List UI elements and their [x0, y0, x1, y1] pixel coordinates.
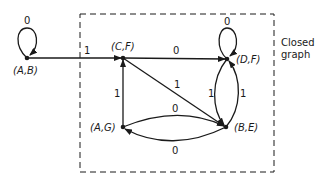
- edge-BE-DF: [226, 61, 238, 127]
- node-DF-label: (D,F): [236, 54, 260, 65]
- node-CF-dot: [121, 56, 126, 61]
- closed-graph-label-line1: Closed: [281, 37, 315, 48]
- edge-label-AB-AB: 0: [24, 15, 30, 26]
- edge-label-CF-BE: 1: [174, 79, 180, 90]
- state-diagram: Closed graph 0 1 0 1 0 1 1 1 0 0 (A,B) (…: [0, 0, 326, 184]
- edge-AG-BE: [123, 116, 224, 127]
- edge-label-AG-BE: 0: [172, 103, 178, 114]
- edge-label-DF-BE: 1: [208, 88, 214, 99]
- edge-label-BE-DF: 1: [240, 88, 246, 99]
- node-AB-dot: [25, 56, 30, 61]
- edge-label-DF-DF: 0: [224, 16, 230, 27]
- node-CF-label: (C,F): [111, 41, 135, 52]
- closed-graph-label-line2: graph: [281, 49, 310, 60]
- node-AB-label: (A,B): [13, 65, 38, 76]
- edge-CF-DF: [123, 58, 225, 59]
- node-BE-dot: [224, 125, 229, 130]
- edge-BE-AG: [125, 127, 226, 141]
- edge-label-BE-AG: 0: [172, 145, 178, 156]
- node-AG-dot: [121, 125, 126, 130]
- edge-AB-AB: [18, 28, 37, 58]
- edge-label-AB-CF: 1: [84, 45, 90, 56]
- edge-DF-DF: [219, 28, 236, 59]
- node-AG-label: (A,G): [90, 122, 116, 133]
- edge-label-AG-CF: 1: [114, 88, 120, 99]
- node-DF-dot: [225, 57, 230, 62]
- edge-label-CF-DF: 0: [173, 45, 179, 56]
- edge-DF-BE: [215, 59, 227, 125]
- node-BE-label: (B,E): [234, 122, 258, 133]
